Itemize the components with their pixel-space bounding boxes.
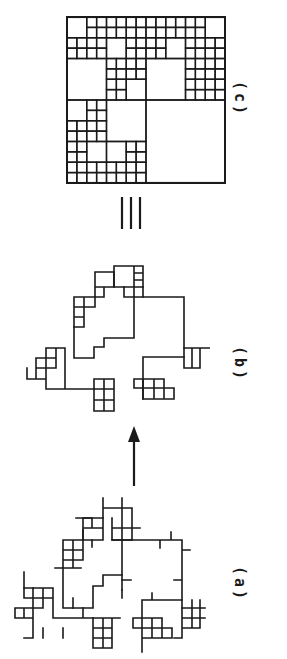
quadtree-cell	[106, 79, 116, 89]
quadtree-cell	[106, 17, 116, 27]
quadtree-cell	[195, 27, 205, 37]
quadtree-cell	[205, 69, 215, 79]
quadtree-block	[67, 17, 87, 38]
quadtree-cell	[195, 69, 205, 79]
quadtree-cell	[136, 59, 146, 69]
quadtree-cell	[166, 17, 176, 27]
quadtree-cell	[77, 38, 87, 48]
quadtree-cell	[97, 27, 107, 37]
quadtree-cell	[176, 27, 186, 37]
quadtree-cell	[156, 17, 166, 27]
quadtree-cell	[97, 173, 107, 183]
quadtree-cell	[77, 162, 87, 172]
blob-top	[114, 266, 143, 287]
quadtree-cell	[215, 59, 225, 69]
quadtree-block	[126, 79, 146, 100]
quadtree-block	[106, 100, 146, 141]
label-b: (b)	[231, 346, 249, 382]
quadtree-block	[106, 38, 126, 59]
quadtree-cell	[136, 69, 146, 79]
quadtree-cell	[116, 162, 126, 172]
quadtree-cell	[106, 173, 116, 183]
quadtree-cell	[186, 17, 196, 27]
quadtree-cell	[146, 38, 156, 48]
quadtree-cell	[146, 27, 156, 37]
quadtree-block	[67, 59, 107, 100]
quadtree-cell	[67, 152, 77, 162]
quadtree-cell	[126, 141, 136, 151]
quadtree-cell	[136, 17, 146, 27]
quadtree-cell	[195, 17, 205, 27]
quadtree-cell	[77, 173, 87, 183]
quadtree-cell	[67, 38, 77, 48]
quadtree-cell	[136, 162, 146, 172]
quadtree-cell	[156, 27, 166, 37]
quadtree-block	[67, 100, 87, 121]
label-c: (c)	[231, 81, 249, 117]
quadtree-cell	[126, 162, 136, 172]
quadtree-cell	[215, 48, 225, 58]
quadtree-cell	[97, 131, 107, 141]
quadtree-cell	[87, 100, 97, 110]
quadtree-cell	[116, 27, 126, 37]
panel-a-full-cluster	[0, 490, 215, 655]
quadtree-cell	[176, 17, 186, 27]
quadtree-cell	[215, 38, 225, 48]
quadtree-cell	[87, 110, 97, 120]
quadtree-cell	[136, 152, 146, 162]
panel-c-quadtree	[66, 16, 226, 184]
quadtree-cell	[97, 48, 107, 58]
quadtree-cell	[186, 38, 196, 48]
quadtree-cell	[106, 27, 116, 37]
quadtree-block	[146, 59, 186, 100]
quadtree-cell	[116, 59, 126, 69]
quadtree-cell	[67, 48, 77, 58]
equivalence-symbol	[118, 195, 144, 231]
quadtree-cell	[146, 17, 156, 27]
quadtree-cell	[186, 69, 196, 79]
quadtree-block	[205, 17, 225, 38]
arrow-a-to-b[interactable]	[124, 424, 144, 490]
quadtree-cell	[87, 162, 97, 172]
quadtree-cell	[67, 162, 77, 172]
quadtree-cell	[126, 17, 136, 27]
quadtree-cell	[77, 152, 87, 162]
quadtree-cell	[215, 79, 225, 89]
quadtree-grid	[66, 16, 226, 184]
panel-b-reduced-cluster	[0, 230, 210, 420]
quadtree-cell	[136, 27, 146, 37]
quadtree-cell	[116, 17, 126, 27]
quadtree-cell	[215, 90, 225, 100]
quadtree-cell	[126, 48, 136, 58]
quadtree-cell	[195, 38, 205, 48]
quadtree-cell	[126, 173, 136, 183]
quadtree-cell	[97, 162, 107, 172]
quadtree-cell	[106, 162, 116, 172]
quadtree-cell	[87, 27, 97, 37]
quadtree-cell	[195, 48, 205, 58]
quadtree-cell	[126, 69, 136, 79]
quadtree-cell	[136, 173, 146, 183]
quadtree-cell	[77, 131, 87, 141]
quadtree-cell	[126, 38, 136, 48]
quadtree-cell	[87, 48, 97, 58]
quadtree-cell	[205, 79, 215, 89]
quadtree-cell	[67, 131, 77, 141]
quadtree-block	[106, 141, 126, 162]
quadtree-cell	[87, 131, 97, 141]
quadtree-cell	[156, 48, 166, 58]
quadtree-cell	[87, 17, 97, 27]
quadtree-cell	[126, 59, 136, 69]
quadtree-cell	[67, 173, 77, 183]
quadtree-cell	[205, 90, 215, 100]
label-a: (a)	[231, 566, 249, 602]
quadtree-cell	[77, 141, 87, 151]
quadtree-block	[166, 38, 186, 59]
quadtree-cell	[205, 38, 215, 48]
quadtree-cell	[126, 27, 136, 37]
quadtree-cell	[186, 90, 196, 100]
quadtree-cell	[87, 173, 97, 183]
quadtree-cell	[87, 121, 97, 131]
quadtree-cell	[106, 59, 116, 69]
quadtree-cell	[186, 27, 196, 37]
